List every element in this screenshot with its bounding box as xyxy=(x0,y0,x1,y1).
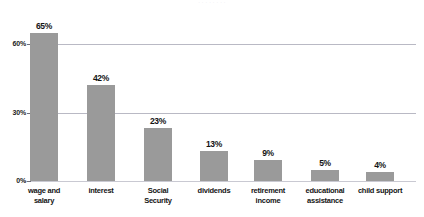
bar-group: 9%retirement income xyxy=(254,0,282,217)
bar-value-label: 42% xyxy=(73,73,129,83)
bar-value-label: 5% xyxy=(297,158,353,168)
bar-group: 13%dividends xyxy=(200,0,228,217)
bar-group: 4%child support xyxy=(366,0,394,217)
x-axis-category-label: retirement income xyxy=(238,186,298,205)
bar xyxy=(311,170,339,181)
bar xyxy=(87,85,115,181)
bar xyxy=(254,160,282,181)
bar-value-label: 13% xyxy=(186,139,242,149)
bar-group: 5%educational assistance xyxy=(311,0,339,217)
bar xyxy=(366,172,394,181)
x-axis-category-label: child support xyxy=(350,186,410,196)
bar-group: 42%interest xyxy=(87,0,115,217)
bar-group: 23%Social Security xyxy=(144,0,172,217)
x-axis-category-label: dividends xyxy=(184,186,244,196)
bar-value-label: 23% xyxy=(130,116,186,126)
bar xyxy=(144,128,172,181)
bars-layer: 65%wage and salary42%interest23%Social S… xyxy=(0,0,424,217)
x-axis-category-label: interest xyxy=(71,186,131,196)
bar-value-label: 4% xyxy=(352,160,408,170)
bar-value-label: 9% xyxy=(240,148,296,158)
bar-value-label: 65% xyxy=(16,21,72,31)
bar-group: 65%wage and salary xyxy=(30,0,58,217)
x-axis-category-label: Social Security xyxy=(128,186,188,205)
bar xyxy=(30,33,58,181)
bar xyxy=(200,151,228,181)
x-axis-category-label: wage and salary xyxy=(14,186,74,205)
bar-chart: · · · · · · · · 60% 30% 0% 65%wage and s… xyxy=(0,0,424,217)
x-axis-category-label: educational assistance xyxy=(295,186,355,205)
